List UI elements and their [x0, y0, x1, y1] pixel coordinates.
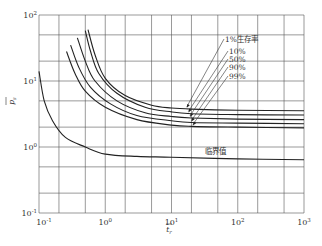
grid	[39, 15, 304, 213]
annotation-label: 90%	[229, 63, 246, 72]
annotations: 1%生存率10%50%90%99%临界值	[187, 34, 259, 156]
y-tick-label: 102	[23, 10, 37, 20]
svg-text:ps: ps	[7, 97, 17, 105]
annotation-label: 1%生存率	[225, 34, 259, 44]
annotation-arrow	[190, 59, 228, 116]
tick-labels: 10-110010110210310-1100101102	[21, 10, 311, 227]
y-tick-label: 100	[23, 142, 37, 152]
chart: 1%生存率10%50%90%99%临界值 10-110010110210310-…	[0, 0, 322, 246]
x-tick-label: 10-1	[36, 217, 52, 227]
x-tick-label: 103	[297, 217, 311, 227]
y-tick-label: 10-1	[21, 208, 37, 218]
annotation-arrow	[193, 76, 228, 124]
series-line-3	[71, 45, 304, 124]
annotation-label: 临界值	[205, 146, 227, 156]
annotation-label: 99%	[229, 72, 246, 81]
x-tick-label: 102	[231, 217, 245, 227]
series-line-0	[88, 30, 304, 111]
y-tick-label: 101	[23, 76, 37, 86]
arrowhead	[187, 104, 190, 108]
y-axis-label: ps	[6, 97, 17, 105]
x-tick-label: 100	[98, 217, 112, 227]
series-line-2	[77, 38, 304, 120]
annotation-arrow	[191, 67, 228, 121]
